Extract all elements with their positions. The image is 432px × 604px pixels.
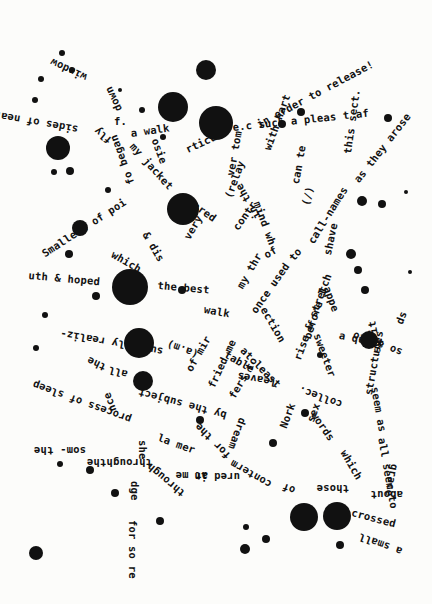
poem-fragment: of	[262, 244, 279, 260]
ink-blot	[336, 541, 344, 549]
ink-blot	[269, 439, 277, 447]
poem-fragment: walk	[203, 304, 231, 319]
ink-blot	[240, 544, 250, 554]
poem-fragment: uth & hoped	[28, 270, 100, 287]
poem-fragment: as they arose	[352, 111, 412, 184]
poem-fragment: f.	[114, 116, 127, 127]
ink-blot	[408, 270, 412, 274]
poem-fragment: dream	[227, 416, 248, 450]
poem-fragment: mind wh	[252, 200, 277, 246]
poem-fragment: sides of near	[0, 110, 79, 135]
poem-fragment: which	[339, 448, 364, 481]
poem-fragment: Nork	[278, 401, 297, 429]
poem-fragment: can te	[290, 144, 307, 184]
ink-blot	[57, 461, 63, 467]
poem-fragment: la mer	[156, 432, 196, 455]
poem-fragment: rticu	[184, 131, 218, 154]
ink-blot	[262, 535, 270, 543]
ink-blot	[118, 88, 122, 92]
ink-blot	[33, 345, 39, 351]
ink-blot	[51, 169, 57, 175]
ink-blot	[323, 502, 351, 530]
ink-blot	[156, 517, 164, 525]
poem-fragment: by the subject	[137, 387, 228, 421]
ink-blot	[46, 136, 70, 160]
poem-fragment: crossed	[350, 507, 397, 529]
ink-blot	[196, 60, 216, 80]
poem-fragment: appe	[322, 285, 341, 313]
poem-fragment: the	[85, 355, 107, 373]
poem-fragment: those	[316, 484, 349, 495]
poem-fragment: & dis	[141, 230, 166, 263]
poem-fragment: ection	[259, 305, 288, 344]
ink-blot	[346, 249, 356, 259]
poem-fragment: for so re	[128, 520, 139, 579]
ink-blot	[29, 546, 43, 560]
ink-blot	[384, 114, 392, 122]
poem-fragment: sweeter	[312, 332, 337, 378]
poem-fragment: ured in	[194, 472, 240, 483]
ink-blot	[92, 292, 100, 300]
poem-fragment: to	[287, 246, 303, 263]
poem-fragment: all	[107, 365, 129, 380]
poem-fragment: window	[49, 57, 89, 83]
ink-blot	[243, 524, 249, 530]
ink-blot	[66, 167, 74, 175]
ink-blot	[42, 312, 48, 318]
poem-fragment: throughthe	[87, 458, 152, 469]
poem-fragment: (/)	[300, 185, 315, 207]
ink-blot	[139, 107, 145, 113]
ink-blot	[378, 200, 386, 208]
poem-fragment: process of sleep	[31, 379, 133, 425]
ink-blot	[112, 269, 148, 305]
poem-fragment: a small	[357, 532, 403, 557]
poem-page: in order to release!e.c such a pleas t a…	[0, 0, 432, 604]
ink-blot	[111, 489, 119, 497]
poem-fragment: my thr	[235, 251, 264, 290]
ink-blot	[38, 76, 44, 82]
poem-fragment: dge	[130, 481, 141, 501]
ink-blot	[59, 50, 65, 56]
ink-blot	[65, 250, 73, 258]
poem-fragment: for the	[193, 421, 233, 461]
ink-blot	[290, 503, 318, 531]
ink-blot	[361, 286, 369, 294]
poem-fragment: this sect.	[342, 88, 361, 154]
ink-blot	[32, 97, 38, 103]
poem-fragment: (a.m)	[165, 339, 199, 360]
poem-fragment: som- the	[34, 446, 86, 457]
ink-blot	[357, 196, 367, 206]
ink-blot	[158, 92, 188, 122]
ink-blot	[105, 187, 111, 193]
poem-fragment: seem as	[370, 386, 388, 433]
ink-blot	[404, 190, 408, 194]
poem-fragment: ds	[394, 310, 408, 326]
poem-fragment: of	[281, 482, 297, 496]
poem-fragment: the best	[157, 280, 210, 295]
poem-fragment: fo began	[108, 133, 136, 186]
ink-blot	[354, 266, 362, 274]
